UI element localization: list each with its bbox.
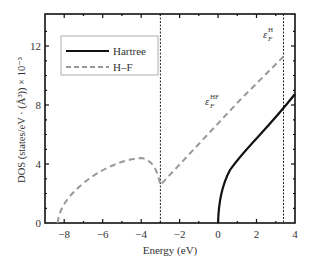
x-tick-label: −2 (174, 228, 186, 240)
y-tick-label: 0 (36, 217, 42, 229)
x-tick-label: 2 (254, 228, 260, 240)
x-tick-label: 0 (215, 228, 221, 240)
y-tick-label: 12 (30, 40, 41, 52)
svg-text:HF: HF (210, 93, 219, 101)
legend-hartree-label: Hartree (113, 45, 146, 57)
fermi-hf-annotation: ε F HF (205, 93, 219, 110)
legend-hf-label: H–F (113, 61, 133, 73)
fermi-h-annotation: ε F H (263, 26, 273, 43)
y-axis-title: DOS (states/eV · (Å³)) × 10⁻³ (16, 57, 28, 183)
x-tick-label: −8 (58, 228, 70, 240)
dos-chart: −8 −6 −4 −2 0 2 4 0 4 8 12 Energy (eV) D… (0, 0, 312, 265)
y-tick-label: 4 (36, 158, 42, 170)
x-tick-label: −4 (135, 228, 147, 240)
x-tick-label: −6 (97, 228, 109, 240)
x-tick-label: 4 (292, 228, 298, 240)
hf-curve (58, 55, 286, 223)
x-axis-title: Energy (eV) (143, 244, 198, 257)
svg-text:F: F (267, 35, 273, 43)
svg-text:H: H (268, 26, 273, 34)
y-tick-label: 8 (36, 99, 42, 111)
svg-text:F: F (209, 102, 215, 110)
